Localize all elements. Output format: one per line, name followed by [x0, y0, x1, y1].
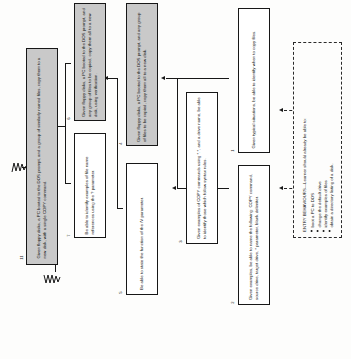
entry-behaviours-title: ENTRY BEHAVIOURS—Learner should already … [301, 48, 307, 232]
objective-box-5-text: Be able to state the function of the /V … [139, 168, 145, 290]
bullet-icon [322, 230, 324, 232]
entry-behaviour-item: change the default drive [316, 48, 322, 232]
objective-box-2[interactable]: Given examples, be able to name the foll… [238, 165, 270, 305]
entry-behaviour-item-label: boot a PC to DOS [310, 193, 315, 228]
stub-7 [65, 183, 71, 184]
objective-box-7-text: Be able to identify examples of file nam… [84, 137, 96, 234]
entry-behaviours-box[interactable]: ENTRY BEHAVIOURS—Learner should already … [293, 42, 342, 238]
objective-box-2-tag: 2 [230, 301, 235, 303]
objective-box-1[interactable]: Given typical situations, be able to ide… [238, 8, 270, 153]
arrow-into-3 [172, 186, 176, 190]
entry-behaviour-item: obtain a directory listing of a disk. [328, 48, 334, 232]
entry-behaviours-content: ENTRY BEHAVIOURS—Learner should already … [301, 48, 334, 232]
entry-behaviour-item-label: obtain a directory listing of a disk. [328, 163, 333, 227]
objective-box-3[interactable]: Given examples of COPY commands using *.… [186, 92, 218, 244]
objective-box-4-tag: 4 [118, 142, 123, 144]
bullet-icon [316, 230, 318, 232]
objective-box-7-tag: 7 [66, 234, 71, 236]
objective-box-1-text: Given typical situations, be able to ide… [251, 13, 257, 148]
objective-box-11[interactable]: Given floppy disks, a PC booted to the D… [26, 48, 58, 265]
entry-behaviour-item-label: identify examples of files [322, 180, 327, 227]
entry-behaviour-item-label: change the default drive [316, 181, 321, 227]
objective-box-6[interactable]: Given floppy disks, a PC booted to the D… [74, 3, 106, 121]
objective-box-3-tag: 3 [178, 240, 183, 242]
bus-4-5-to-6 [108, 78, 118, 79]
objective-box-11-text: Given floppy disks, a PC booted to the D… [36, 55, 48, 258]
arrow-into-2 [279, 186, 283, 190]
objective-box-5[interactable]: Be able to state the function of the /V … [126, 163, 158, 295]
entry-behaviour-item: identify examples of files [322, 48, 328, 232]
objective-box-6-text: Given floppy disks, a PC booted to the D… [81, 7, 99, 117]
broken-link-squiggle-bottom [42, 272, 66, 286]
objective-box-4-text: Given floppy disks, a PC booted to the D… [136, 8, 148, 142]
entry-behaviour-item: boot a PC to DOS [310, 48, 316, 232]
objective-box-6-tag: 6 [66, 117, 71, 119]
objective-box-4[interactable]: Given floppy disks, a PC booted to the D… [126, 3, 158, 146]
arrow-into-1 [279, 108, 283, 112]
bullet-icon [310, 230, 312, 232]
connector-1-to-3 [177, 78, 229, 79]
diagram-canvas: Given floppy disks, a PC booted to the D… [0, 0, 351, 359]
arrow-into-4 [161, 76, 165, 80]
objective-box-5-tag: 5 [118, 291, 123, 293]
bus-6-7 [65, 126, 66, 183]
bus-3 [177, 78, 178, 188]
objective-box-1-tag: 1 [230, 149, 235, 151]
stub-5 [117, 208, 123, 209]
objective-box-2-text: Given examples, be able to name the foll… [248, 170, 260, 300]
objective-box-7[interactable]: Be able to identify examples of file nam… [74, 133, 106, 238]
bullet-icon [328, 230, 330, 232]
objective-box-11-tag: 11 [19, 255, 24, 259]
objective-box-3-text: Given examples of COPY commands using *.… [196, 97, 208, 239]
